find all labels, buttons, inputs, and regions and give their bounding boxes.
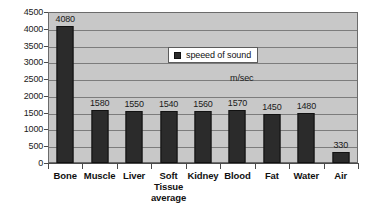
x-tick-mark	[117, 164, 118, 169]
x-axis-category-line: Liver	[123, 170, 145, 181]
x-axis-category-line: Tissue	[151, 181, 186, 192]
bar-value-label: 1450	[262, 102, 281, 112]
y-tick-label: 3500	[24, 41, 43, 51]
x-axis-category-line: Blood	[224, 170, 250, 181]
x-axis-category-line: Soft	[151, 170, 186, 181]
bar-value-label: 1550	[124, 99, 143, 109]
y-tick-mark	[44, 129, 48, 130]
bar-slot: 1550	[117, 12, 151, 163]
bar[interactable]	[332, 152, 349, 163]
y-tick-label: 2500	[24, 74, 43, 84]
y-tick-label: 1500	[24, 108, 43, 118]
x-axis-category-label: Water	[294, 170, 320, 181]
bar-slot: 1540	[151, 12, 185, 163]
x-tick-mark	[324, 164, 325, 169]
bar-value-label: 330	[334, 140, 348, 150]
bar-slot: 1480	[289, 12, 323, 163]
speed-of-sound-bar-chart: 450040003500300025002000150010005000 408…	[0, 0, 366, 210]
x-axis-category-label: SoftTissueaverage	[151, 170, 186, 203]
legend-swatch-icon	[174, 52, 181, 59]
bars-layer: 40801580155015401560157014501480330	[48, 12, 358, 163]
y-tick-label: 1000	[24, 124, 43, 134]
bar[interactable]	[298, 113, 315, 163]
bar[interactable]	[160, 111, 177, 163]
bar-value-label: 1580	[90, 98, 109, 108]
y-tick-label: 0	[38, 158, 43, 168]
y-tick-mark	[44, 46, 48, 47]
bar-value-label: 4080	[56, 14, 75, 24]
bar[interactable]	[126, 111, 143, 163]
x-axis-category-label: Muscle	[84, 170, 116, 181]
x-axis-category-line: Bone	[54, 170, 77, 181]
x-axis-category-line: Air	[334, 170, 347, 181]
y-tick-mark	[44, 146, 48, 147]
y-tick-label: 3000	[24, 57, 43, 67]
x-axis-category-line: Muscle	[84, 170, 116, 181]
x-tick-mark	[358, 164, 359, 169]
x-tick-mark	[255, 164, 256, 169]
x-axis-category-label: Air	[334, 170, 347, 181]
bar-value-label: 1540	[159, 99, 178, 109]
bar[interactable]	[194, 111, 211, 163]
x-axis-category-label: Kidney	[187, 170, 218, 181]
y-tick-mark	[44, 96, 48, 97]
y-tick-label: 4500	[24, 7, 43, 17]
y-tick-label: 500	[29, 141, 43, 151]
y-tick-mark	[44, 163, 48, 164]
bar[interactable]	[57, 26, 74, 163]
y-tick-mark	[44, 29, 48, 30]
x-tick-mark	[186, 164, 187, 169]
bar-slot: 1570	[220, 12, 254, 163]
y-axis: 450040003500300025002000150010005000	[0, 12, 43, 163]
chart-legend: speeed of sound	[168, 47, 258, 63]
x-axis-category-label: Blood	[224, 170, 250, 181]
bar[interactable]	[263, 114, 280, 163]
x-tick-mark	[151, 164, 152, 169]
bar-slot: 1580	[82, 12, 116, 163]
y-tick-mark	[44, 12, 48, 13]
y-tick-mark	[44, 113, 48, 114]
units-annotation: m/sec	[230, 73, 254, 83]
y-tick-mark	[44, 79, 48, 80]
y-tick-label: 2000	[24, 91, 43, 101]
bar-slot: 4080	[48, 12, 82, 163]
x-axis-category-line: Water	[294, 170, 320, 181]
bar[interactable]	[229, 110, 246, 163]
y-tick-label: 4000	[24, 24, 43, 34]
x-axis-category-line: average	[151, 192, 186, 203]
x-axis-category-label: Fat	[265, 170, 279, 181]
x-axis-category-line: Fat	[265, 170, 279, 181]
bar[interactable]	[91, 110, 108, 163]
bar-slot: 1450	[255, 12, 289, 163]
x-axis-ticks	[48, 164, 358, 169]
y-tick-mark	[44, 62, 48, 63]
x-axis-category-line: Kidney	[187, 170, 218, 181]
x-tick-mark	[48, 164, 49, 169]
legend-label: speeed of sound	[186, 50, 251, 60]
x-tick-mark	[82, 164, 83, 169]
bar-value-label: 1560	[193, 99, 212, 109]
x-axis-labels: BoneMuscleLiverSoftTissueaverageKidneyBl…	[48, 170, 358, 210]
x-axis-category-label: Liver	[123, 170, 145, 181]
x-tick-mark	[289, 164, 290, 169]
bar-slot: 330	[324, 12, 358, 163]
bar-value-label: 1570	[228, 98, 247, 108]
bar-value-label: 1480	[297, 101, 316, 111]
bar-slot: 1560	[186, 12, 220, 163]
x-axis-category-label: Bone	[54, 170, 77, 181]
x-tick-mark	[220, 164, 221, 169]
